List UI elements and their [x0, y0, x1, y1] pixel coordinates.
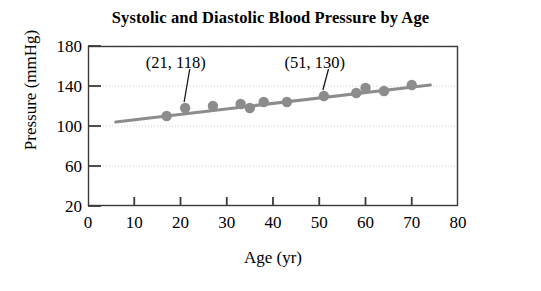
data-point-marker	[161, 111, 171, 121]
y-axis-tick-label: 60	[36, 158, 82, 175]
annotation-label: (21, 118)	[146, 55, 206, 72]
x-axis-tick-label: 30	[207, 214, 247, 231]
y-axis-tick-label: 180	[36, 38, 82, 55]
y-axis-tick-label: 100	[36, 118, 82, 135]
data-point-marker	[235, 99, 245, 109]
data-point-marker	[351, 88, 361, 98]
data-point-marker	[360, 83, 370, 93]
data-point-marker	[319, 91, 329, 101]
x-axis-label: Age (yr)	[88, 248, 458, 268]
x-axis-tick-label: 60	[346, 214, 386, 231]
plot-svg	[88, 46, 458, 206]
annotation-label: (51, 130)	[285, 55, 346, 72]
data-point-marker	[245, 103, 255, 113]
plot-area	[88, 46, 458, 206]
x-axis-tick-label: 50	[299, 214, 339, 231]
data-point-marker	[208, 101, 218, 111]
data-point-marker	[407, 80, 417, 90]
chart-figure: Systolic and Diastolic Blood Pressure by…	[0, 0, 541, 291]
x-axis-tick-label: 80	[438, 214, 478, 231]
annotation-leader-line	[323, 69, 329, 90]
x-axis-tick-label: 40	[253, 214, 293, 231]
y-axis-tick-label: 20	[36, 198, 82, 215]
y-axis-tick-label: 140	[36, 78, 82, 95]
x-axis-tick-label: 10	[114, 214, 154, 231]
data-point-marker	[259, 97, 269, 107]
data-point-marker	[180, 103, 190, 113]
data-point-marker	[379, 86, 389, 96]
data-point-marker	[282, 97, 292, 107]
x-axis-tick-label: 70	[392, 214, 432, 231]
plot-frame	[89, 47, 458, 206]
x-axis-tick-label: 20	[161, 214, 201, 231]
chart-title: Systolic and Diastolic Blood Pressure by…	[0, 8, 541, 28]
x-axis-tick-label: 0	[68, 214, 108, 231]
